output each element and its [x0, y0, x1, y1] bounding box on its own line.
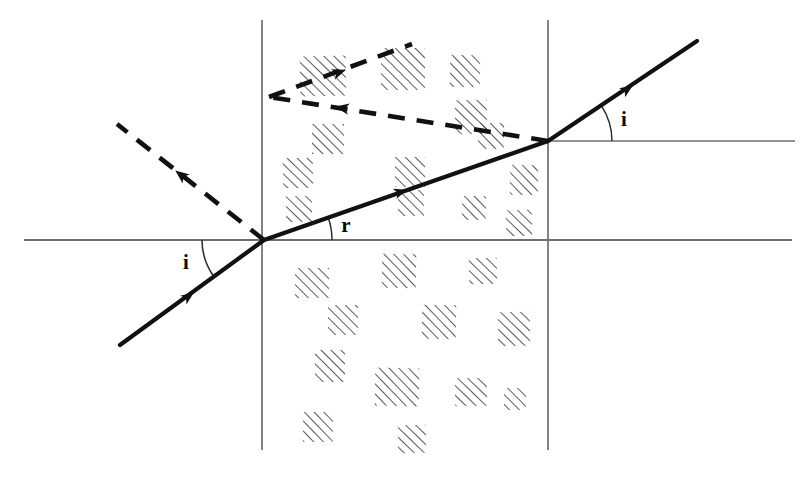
diagram-canvas: i r i [0, 0, 801, 482]
hatch-cluster [504, 388, 526, 410]
hatch-cluster [283, 158, 314, 189]
hatch-cluster [312, 124, 344, 154]
hatch-cluster [328, 305, 358, 335]
label-angle-refraction: r [341, 213, 350, 237]
label-angle-incidence: i [183, 250, 189, 274]
hatch-cluster [382, 254, 417, 289]
hatch-cluster [315, 350, 345, 382]
refracted-ray-arrowhead [404, 190, 406, 191]
hatch-cluster [398, 425, 426, 453]
hatch-cluster [286, 196, 312, 222]
internal-reflection-leg-2-arrowhead [343, 70, 345, 71]
hatch-cluster [303, 412, 334, 443]
hatch-cluster [422, 305, 457, 340]
hatch-cluster [450, 55, 481, 88]
hatch-cluster [395, 157, 425, 187]
hatch-cluster [469, 258, 497, 284]
hatch-cluster [478, 123, 504, 149]
hatch-cluster [455, 378, 487, 407]
hatch-cluster [462, 196, 486, 220]
hatch-cluster [295, 268, 329, 298]
hatch-cluster [498, 312, 531, 347]
hatch-cluster [300, 56, 347, 97]
hatch-cluster [375, 368, 420, 407]
hatch-cluster [510, 165, 539, 195]
hatch-cluster [506, 210, 532, 236]
refraction-diagram: i r i [0, 0, 801, 482]
label-angle-emergence: i [621, 107, 627, 131]
